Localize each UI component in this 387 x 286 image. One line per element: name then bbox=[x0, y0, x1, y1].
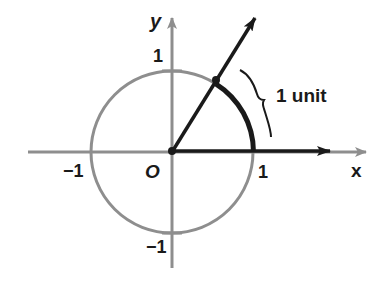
arc-length-label: 1 unit bbox=[276, 85, 327, 106]
intersection-point bbox=[212, 76, 220, 84]
x-neg-one-label: −1 bbox=[63, 161, 84, 181]
y-axis-label: y bbox=[149, 10, 162, 32]
arc-length-brace bbox=[240, 70, 271, 137]
x-axis-label: x bbox=[351, 160, 362, 181]
y-pos-one-label: 1 bbox=[153, 46, 163, 66]
unit-circle-diagram: y 1 −1 −1 O 1 x 1 unit bbox=[0, 0, 387, 286]
unit-arc bbox=[216, 84, 254, 152]
origin-label: O bbox=[145, 161, 160, 182]
y-neg-one-label: −1 bbox=[146, 237, 167, 257]
origin-point bbox=[168, 147, 176, 155]
terminal-ray bbox=[172, 18, 255, 152]
x-pos-one-label: 1 bbox=[258, 162, 268, 182]
